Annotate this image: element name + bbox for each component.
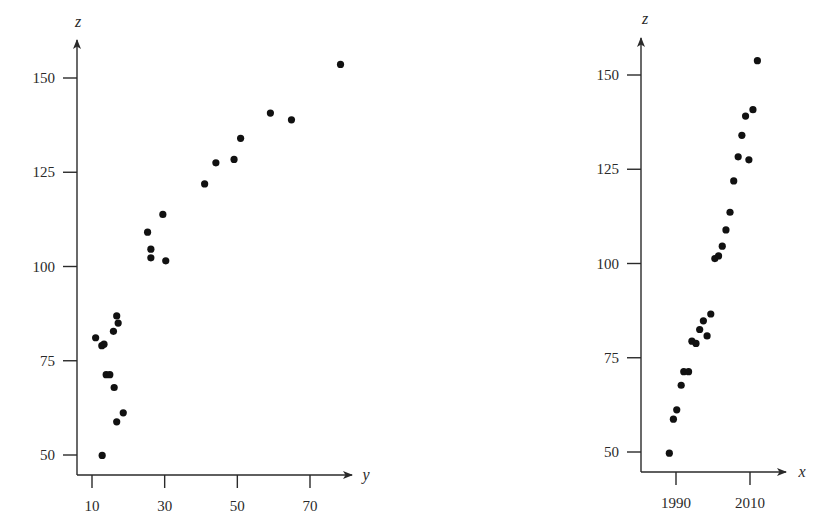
data-point [162, 257, 169, 264]
data-point [111, 384, 118, 391]
data-point [722, 226, 729, 233]
data-point [700, 317, 707, 324]
data-point [696, 326, 703, 333]
scatter-z-vs-x: 507510012515019902010xz [597, 10, 806, 511]
y-tick-label: 100 [597, 256, 620, 272]
data-point [726, 209, 733, 216]
data-point [147, 246, 154, 253]
y-tick-label: 125 [597, 161, 620, 177]
scatter-figure: 507510012515010305070yz 5075100125150199… [0, 0, 816, 531]
data-point [92, 334, 99, 341]
data-points [92, 61, 344, 459]
y-tick-label: 150 [597, 67, 620, 83]
data-point [100, 341, 107, 348]
data-point [237, 135, 244, 142]
data-point [230, 156, 237, 163]
data-point [685, 368, 692, 375]
data-point [147, 254, 154, 261]
data-point [692, 340, 699, 347]
data-point [267, 109, 274, 116]
data-point [337, 61, 344, 68]
x-tick-label: 1990 [661, 495, 691, 511]
data-point [115, 319, 122, 326]
y-tick-label: 50 [604, 444, 619, 460]
data-point [735, 153, 742, 160]
data-point [288, 116, 295, 123]
data-point [742, 112, 749, 119]
x-tick-label: 70 [303, 498, 318, 514]
x-tick-label: 50 [230, 498, 245, 514]
x-axis-label: x [797, 463, 805, 480]
data-point [754, 57, 761, 64]
data-point [144, 229, 151, 236]
data-point [730, 177, 737, 184]
data-point [106, 371, 113, 378]
data-point [99, 452, 106, 459]
data-point [678, 382, 685, 389]
data-point [738, 132, 745, 139]
x-tick-label: 10 [85, 498, 100, 514]
data-point [159, 211, 166, 218]
y-tick-label: 75 [604, 350, 619, 366]
data-point [703, 332, 710, 339]
data-point [110, 328, 117, 335]
data-points [666, 57, 761, 457]
data-point [666, 450, 673, 457]
data-point [673, 406, 680, 413]
data-point [113, 312, 120, 319]
data-point [745, 156, 752, 163]
x-tick-label: 30 [157, 498, 172, 514]
x-tick-label: 2010 [735, 495, 765, 511]
data-point [670, 416, 677, 423]
data-point [212, 159, 219, 166]
y-tick-label: 125 [33, 164, 56, 180]
data-point [113, 418, 120, 425]
y-tick-label: 100 [33, 259, 56, 275]
y-tick-label: 75 [40, 353, 55, 369]
y-axis-label: z [74, 13, 82, 30]
data-point [120, 409, 127, 416]
data-point [707, 310, 714, 317]
y-axis-label: z [641, 10, 649, 27]
y-tick-label: 50 [40, 447, 55, 463]
data-point [201, 180, 208, 187]
x-axis-label: y [360, 466, 370, 484]
data-point [719, 243, 726, 250]
data-point [711, 255, 718, 262]
data-point [749, 106, 756, 113]
scatter-z-vs-y: 507510012515010305070yz [33, 13, 371, 514]
y-tick-label: 150 [33, 70, 56, 86]
